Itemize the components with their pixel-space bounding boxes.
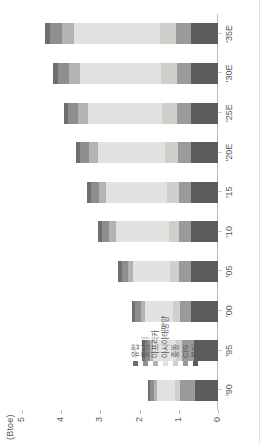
- bar-segment[interactable]: [176, 23, 190, 44]
- bar-segment[interactable]: [179, 182, 192, 203]
- legend-item-label: 유럽: [131, 344, 140, 358]
- bar-segment[interactable]: [160, 23, 177, 44]
- stacked-bar[interactable]: [148, 380, 219, 401]
- bar-column[interactable]: '30E: [22, 54, 218, 94]
- bar-segment[interactable]: [191, 261, 218, 282]
- bar-segment[interactable]: [58, 63, 69, 84]
- bar-segment[interactable]: [62, 23, 75, 44]
- bar-segment[interactable]: [133, 261, 170, 282]
- legend-item[interactable]: 아프리카: [151, 316, 160, 366]
- legend-item-label: 아시아태평양: [161, 316, 170, 358]
- bar-segment[interactable]: [68, 103, 78, 124]
- bar-column[interactable]: '35E: [22, 14, 218, 54]
- bar-segment[interactable]: [179, 221, 191, 242]
- bar-segment[interactable]: [162, 103, 177, 124]
- bar-column[interactable]: '10: [22, 212, 218, 252]
- bar-column[interactable]: '05: [22, 252, 218, 292]
- legend-item-label: CIS: [181, 345, 190, 358]
- bar-segment[interactable]: [195, 380, 218, 401]
- bar-segment[interactable]: [69, 63, 80, 84]
- legend-item[interactable]: 아시아태평양: [161, 316, 170, 366]
- bar-segment[interactable]: [191, 103, 218, 124]
- bar-column[interactable]: '15: [22, 172, 218, 212]
- y-axis-tick-mark: [140, 410, 141, 414]
- bar-column[interactable]: '90: [22, 370, 218, 410]
- stacked-bar[interactable]: [98, 221, 218, 242]
- bar-segment[interactable]: [191, 142, 218, 163]
- x-axis-tick-label: '30E: [224, 65, 234, 83]
- chart-legend: 유럽중남미아프리카아시아태평양중동CIS북미: [131, 316, 200, 366]
- footer-divider: [259, 0, 260, 444]
- bar-segment[interactable]: [191, 63, 218, 84]
- x-axis-tick-label: '15: [224, 186, 234, 198]
- bar-segment[interactable]: [177, 63, 191, 84]
- legend-item[interactable]: CIS: [181, 316, 190, 366]
- y-axis-tick-label: 0: [211, 417, 224, 422]
- bar-segment[interactable]: [177, 103, 190, 124]
- x-axis-tick-mark: [218, 270, 222, 271]
- stacked-bar[interactable]: [87, 182, 218, 203]
- bar-segment[interactable]: [167, 182, 179, 203]
- bar-segment[interactable]: [178, 142, 191, 163]
- stacked-bar[interactable]: [118, 261, 218, 282]
- bar-segment[interactable]: [102, 221, 109, 242]
- bar-segment[interactable]: [169, 221, 180, 242]
- x-axis-tick-mark: [218, 112, 222, 113]
- y-axis-tick-label: 3: [93, 417, 106, 422]
- bar-segment[interactable]: [191, 182, 218, 203]
- stacked-bar[interactable]: [76, 142, 218, 163]
- bar-segment[interactable]: [78, 103, 87, 124]
- stacked-bar-chart: (Btoe) 543210 '90'95'00'05'10'15'20E'25E…: [0, 0, 262, 444]
- legend-item[interactable]: 중동: [171, 316, 180, 366]
- legend-item-label: 중동: [171, 344, 180, 358]
- bar-column[interactable]: '25E: [22, 93, 218, 133]
- bar-segment[interactable]: [157, 380, 175, 401]
- legend-item-label: 아프리카: [151, 330, 160, 358]
- legend-color-swatch: [173, 361, 178, 366]
- bar-segment[interactable]: [161, 63, 177, 84]
- x-axis-tick-mark: [218, 191, 222, 192]
- y-axis-tick-mark: [100, 410, 101, 414]
- bar-segment[interactable]: [74, 23, 159, 44]
- x-axis-tick-label: '20E: [224, 144, 234, 162]
- x-axis-tick-mark: [218, 350, 222, 351]
- legend-item[interactable]: 유럽: [131, 316, 140, 366]
- bar-segment[interactable]: [191, 23, 218, 44]
- bar-segment[interactable]: [89, 142, 97, 163]
- bar-segment[interactable]: [180, 380, 196, 401]
- plot-area: 543210 '90'95'00'05'10'15'20E'25E'30E'35…: [22, 14, 218, 410]
- x-axis-tick-mark: [218, 152, 222, 153]
- bar-segment[interactable]: [170, 261, 179, 282]
- legend-color-swatch: [193, 361, 198, 366]
- y-axis-tick-label: 1: [172, 417, 185, 422]
- legend-item[interactable]: 북미: [191, 316, 200, 366]
- bar-segment[interactable]: [106, 182, 167, 203]
- y-axis-tick-label: 5: [15, 417, 28, 422]
- stacked-bar[interactable]: [53, 63, 218, 84]
- bar-segment[interactable]: [88, 103, 162, 124]
- legend-item-label: 중남미: [141, 337, 150, 358]
- x-axis-tick-label: '35E: [224, 25, 234, 43]
- x-axis-tick-mark: [218, 310, 222, 311]
- chart-screenshot: (Btoe) 543210 '90'95'00'05'10'15'20E'25E…: [0, 0, 262, 444]
- bar-segment[interactable]: [191, 221, 218, 242]
- bar-segment[interactable]: [80, 142, 89, 163]
- bar-column[interactable]: '20E: [22, 133, 218, 173]
- stacked-bar[interactable]: [45, 23, 218, 44]
- bar-segment[interactable]: [50, 23, 62, 44]
- x-axis-tick-label: '10: [224, 226, 234, 238]
- bar-segment[interactable]: [98, 142, 165, 163]
- bar-segment[interactable]: [80, 63, 160, 84]
- y-axis-tick-label: 2: [133, 417, 146, 422]
- bar-segment[interactable]: [91, 182, 99, 203]
- y-axis-unit-label: (Btoe): [5, 414, 15, 440]
- x-axis-tick-mark: [218, 389, 222, 390]
- y-axis-tick-label: 4: [54, 417, 67, 422]
- bar-segment[interactable]: [99, 182, 106, 203]
- bar-segment[interactable]: [179, 261, 191, 282]
- bar-segment[interactable]: [116, 221, 169, 242]
- bar-segment[interactable]: [165, 142, 178, 163]
- stacked-bar[interactable]: [64, 103, 218, 124]
- legend-item[interactable]: 중남미: [141, 316, 150, 366]
- x-axis-tick-label: '00: [224, 305, 234, 317]
